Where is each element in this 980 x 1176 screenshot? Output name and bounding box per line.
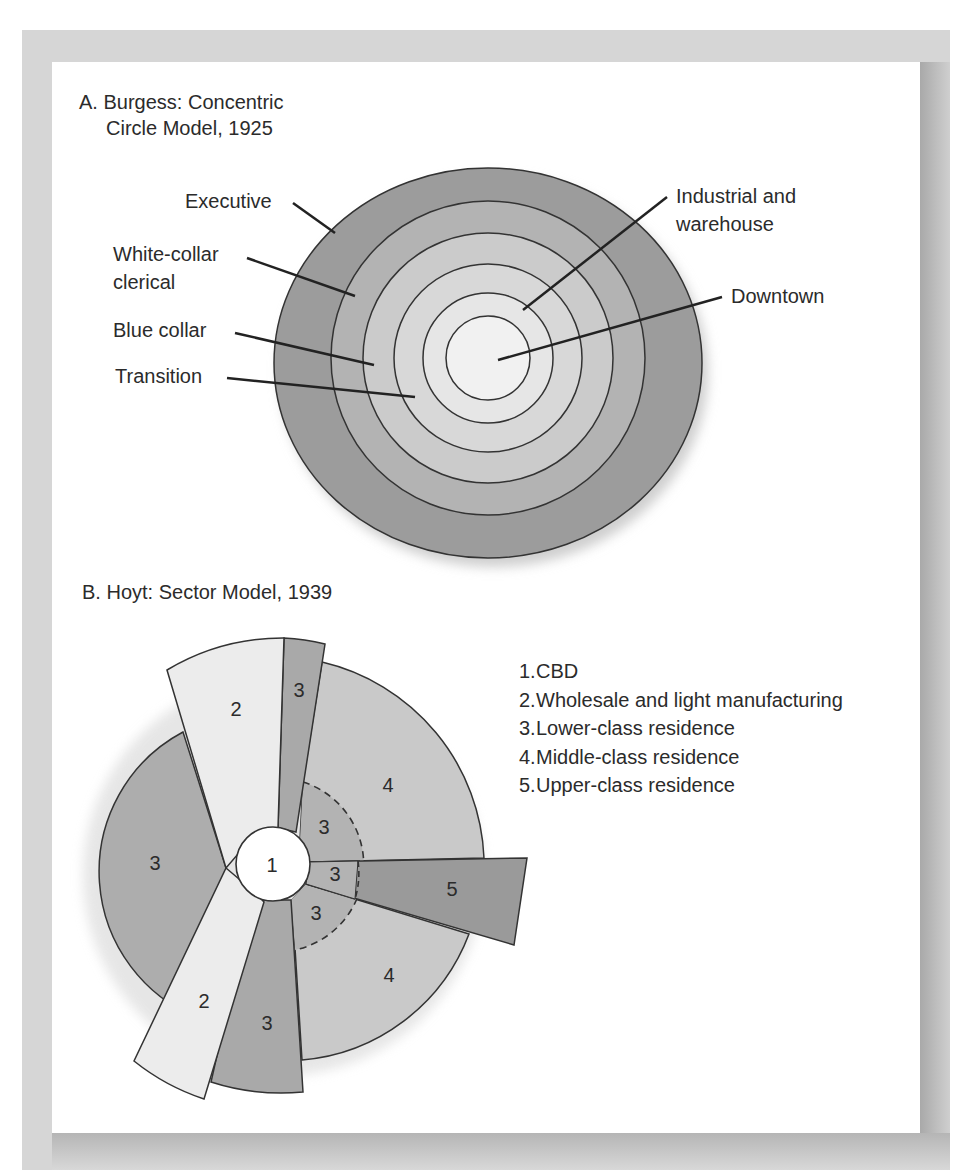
legend-number: 5. xyxy=(519,771,536,800)
label-lower-inner-upper: 3 xyxy=(318,816,329,838)
concentric-zone-diagram xyxy=(227,168,722,567)
label-industrial-line2: warehouse xyxy=(676,210,774,238)
label-white-collar-line1: White-collar xyxy=(113,240,219,268)
panel-a-title-line1: A. Burgess: Concentric xyxy=(79,88,284,116)
legend-number: 3. xyxy=(519,714,536,743)
legend-number: 4. xyxy=(519,743,536,772)
legend-number: 2. xyxy=(519,686,536,715)
legend-item-upper-class: 5.Upper-class residence xyxy=(519,771,843,800)
label-executive: Executive xyxy=(185,187,272,215)
label-lower-inner-mid: 3 xyxy=(329,863,340,885)
legend-label: CBD xyxy=(536,660,578,682)
legend-item-lower-class: 3.Lower-class residence xyxy=(519,714,843,743)
label-upper: 5 xyxy=(446,878,457,900)
label-cbd: 1 xyxy=(266,854,277,876)
label-downtown: Downtown xyxy=(731,282,824,310)
legend-item-cbd: 1.CBD xyxy=(519,657,843,686)
label-blue-collar: Blue collar xyxy=(113,316,206,344)
label-transition: Transition xyxy=(115,362,202,390)
legend-label: Upper-class residence xyxy=(536,774,735,796)
sector-legend: 1.CBD 2.Wholesale and light manufacturin… xyxy=(519,657,843,800)
label-middle-lower: 4 xyxy=(383,964,394,986)
ring-downtown xyxy=(446,316,530,400)
label-white-collar-line2: clerical xyxy=(113,268,175,296)
label-wholesale-bottom: 2 xyxy=(198,990,209,1012)
leader-executive xyxy=(293,203,335,233)
sector-model-diagram: 1 2 3 3 4 3 3 3 5 4 2 3 xyxy=(83,638,527,1099)
label-middle-upper: 4 xyxy=(382,774,393,796)
label-wholesale-top: 2 xyxy=(230,698,241,720)
legend-label: Lower-class residence xyxy=(536,717,735,739)
legend-label: Middle-class residence xyxy=(536,746,739,768)
legend-item-middle-class: 4.Middle-class residence xyxy=(519,743,843,772)
panel-b-title: B. Hoyt: Sector Model, 1939 xyxy=(82,578,332,606)
legend-number: 1. xyxy=(519,657,536,686)
legend-label: Wholesale and light manufacturing xyxy=(536,689,843,711)
panel-a-title-line2: Circle Model, 1925 xyxy=(106,114,273,142)
label-industrial-line1: Industrial and xyxy=(676,182,796,210)
legend-item-wholesale: 2.Wholesale and light manufacturing xyxy=(519,686,843,715)
label-lower-bottom: 3 xyxy=(261,1012,272,1034)
label-lower-inner-lower: 3 xyxy=(310,902,321,924)
label-lower-top: 3 xyxy=(293,679,304,701)
label-lower-left: 3 xyxy=(149,852,160,874)
